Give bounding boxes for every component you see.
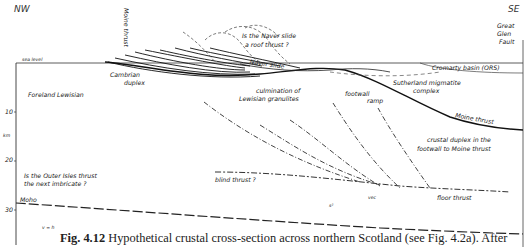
cambrian-label-2: duplex <box>124 79 145 87</box>
outer-isles-label-1: Is the Outer Isles thrust <box>24 172 97 179</box>
great-glen-label-3: Fault <box>499 38 515 45</box>
culmination-label-2: Lewisian granulites <box>239 95 299 103</box>
scale-ratio-label: v = h <box>42 225 54 230</box>
cambrian-label-1: Cambrian <box>110 71 140 78</box>
depth-tick-label-10: 10 <box>5 108 13 115</box>
culmination-label-1: culmination of <box>256 87 301 94</box>
floor-thrust-label: floor thrust <box>437 194 472 201</box>
figure-caption: Fig. 4.12 Hypothetical crustal cross-sec… <box>60 231 527 246</box>
depth-unit-label: km <box>3 133 11 138</box>
moine-thrust-line <box>105 62 523 130</box>
footwall-ramp-label-2: ramp <box>367 97 383 105</box>
sutherland-label-2: complex <box>413 87 440 95</box>
direction-se: SE <box>508 4 520 14</box>
sea-level-label: sea level <box>22 57 43 62</box>
moho-line <box>16 203 523 234</box>
cross-section-diagram: NW SE sea level Moine thrust Is the Nave… <box>0 0 527 247</box>
caption-number: Fig. 4.12 <box>60 231 105 245</box>
great-glen-label-2: Glen <box>497 30 511 37</box>
blind-thrust-label: blind thrust ? <box>215 176 257 183</box>
naver-question-label-2: a roof thrust ? <box>245 41 289 48</box>
naver-slide-dashed <box>330 72 440 76</box>
great-glen-label-1: Great <box>497 22 515 29</box>
depth-tick-label-30: 30 <box>5 206 13 213</box>
outer-isles-label-2: the next imbricate ? <box>24 180 87 187</box>
direction-nw: NW <box>14 4 31 14</box>
moine-thrust-top-label: Moine thrust <box>123 8 130 48</box>
footwall-ramp-label-1: footwall <box>345 90 370 97</box>
sutherland-label-1: Sutherland migmatite <box>393 79 461 87</box>
s-label: s² <box>329 203 333 208</box>
crustal-duplex-label-2: footwall to Moine thrust <box>417 145 491 152</box>
naver-question-label-1: Is the Naver slide <box>242 32 296 39</box>
foreland-label: Foreland Lewisian <box>28 91 84 98</box>
crustal-duplex-label-1: crustal duplex in the <box>427 136 491 144</box>
moho-label: Moho <box>20 196 37 203</box>
caption-text: Hypothetical crustal cross-section acros… <box>108 231 507 245</box>
cromarty-label: Cromarty basin (ORS) <box>432 64 500 72</box>
depth-tick-label-20: 20 <box>5 156 13 163</box>
vec-label: vec <box>368 195 377 200</box>
